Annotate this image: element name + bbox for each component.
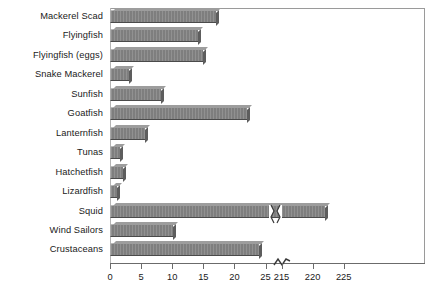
category-label: Tunas — [0, 147, 103, 157]
category-label: Mackerel Scad — [0, 11, 103, 21]
bar — [110, 243, 259, 256]
bar — [110, 68, 129, 81]
category-label: Sunfish — [0, 89, 103, 99]
category-label: Snake Mackerel — [0, 69, 103, 79]
bar-texture — [111, 108, 247, 119]
bar-texture — [111, 11, 216, 22]
category-label: Goatfish — [0, 108, 103, 118]
bar-texture — [111, 167, 123, 178]
category-label: Wind Sailors — [0, 225, 103, 235]
bar — [110, 10, 216, 23]
x-axis-tick — [313, 263, 314, 269]
bar — [110, 224, 173, 237]
bar — [110, 107, 247, 120]
x-axis-tick — [141, 263, 142, 269]
category-label: Hatchetfish — [0, 167, 103, 177]
x-axis-tick — [282, 263, 283, 269]
bar-texture — [111, 147, 120, 158]
x-axis-tick — [203, 263, 204, 269]
category-label: Flyingfish (eggs) — [0, 50, 103, 60]
bar-texture — [111, 225, 173, 236]
x-axis-tick — [266, 263, 267, 269]
bar — [110, 29, 198, 42]
bar-texture — [111, 128, 145, 139]
bar-texture — [111, 186, 117, 197]
bar-texture — [111, 69, 129, 80]
bar-break-icon — [269, 202, 282, 224]
x-axis-tick-label: 225 — [324, 272, 364, 282]
bar — [110, 146, 120, 159]
bar — [110, 127, 145, 140]
category-label: Flyingfish — [0, 30, 103, 40]
x-axis-tick — [344, 263, 345, 269]
category-label: Crustaceans — [0, 244, 103, 254]
x-axis-tick — [234, 263, 235, 269]
bar — [110, 166, 123, 179]
x-axis-tick — [172, 263, 173, 269]
bar-texture — [111, 89, 161, 100]
bar — [110, 205, 325, 218]
bar-texture — [111, 30, 198, 41]
bar — [110, 49, 203, 62]
bar-texture — [111, 244, 259, 255]
plot-frame-right — [424, 8, 425, 263]
category-label: Lanternfish — [0, 128, 103, 138]
bar — [110, 88, 161, 101]
bar-chart: Mackerel ScadFlyingfishFlyingfish (eggs)… — [0, 0, 433, 298]
category-label: Lizardfish — [0, 186, 103, 196]
category-label: Squid — [0, 206, 103, 216]
bar-texture — [111, 50, 203, 61]
x-axis-line — [110, 263, 425, 264]
bar-texture — [111, 206, 325, 217]
x-axis-tick — [110, 263, 111, 269]
bar — [110, 185, 117, 198]
